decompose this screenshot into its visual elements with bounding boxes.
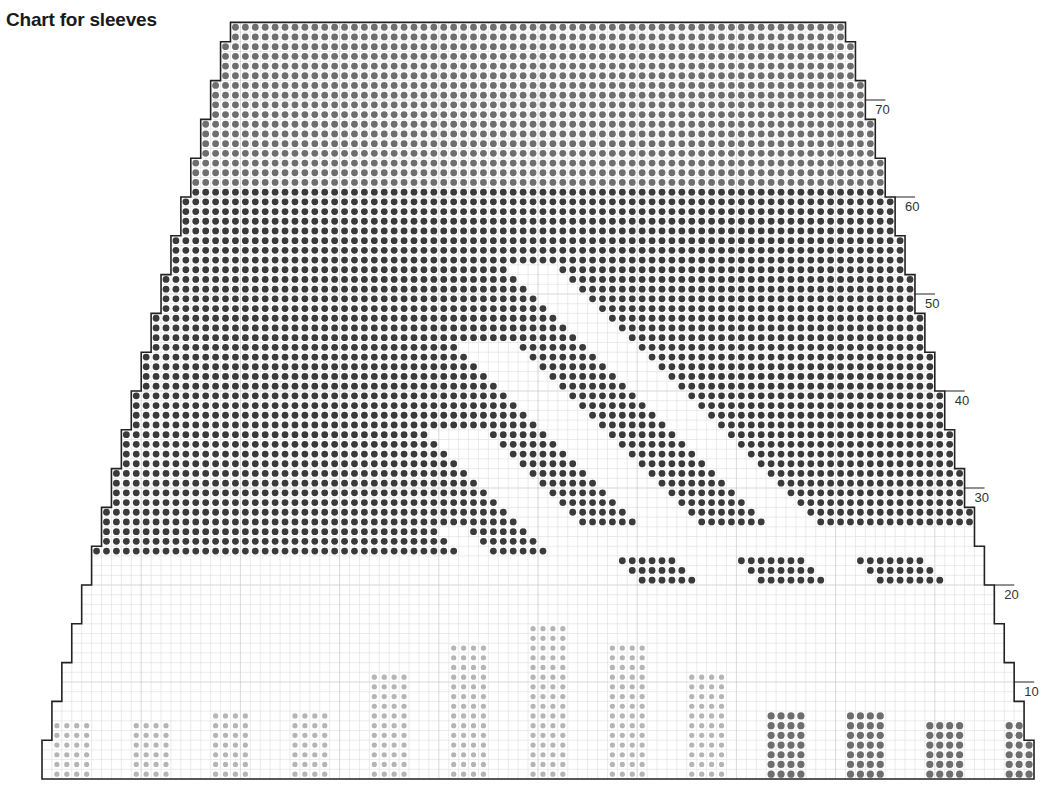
row-label-10: 10: [1024, 684, 1038, 699]
grid-lines: [42, 22, 1034, 779]
row-label-30: 30: [975, 490, 989, 505]
row-label-50: 50: [925, 296, 939, 311]
row-label-20: 20: [1004, 587, 1018, 602]
row-label-40: 40: [955, 393, 969, 408]
row-label-70: 70: [875, 102, 889, 117]
sleeve-knitting-chart: 10203040506070: [0, 0, 1052, 793]
row-number-labels: 10203040506070: [865, 100, 1038, 699]
row-label-60: 60: [905, 199, 919, 214]
